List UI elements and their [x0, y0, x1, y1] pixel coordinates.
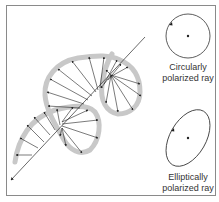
circular-label: Circularly polarized ray [158, 62, 218, 84]
circular-polarization-icon [166, 14, 210, 58]
elliptical-label-line2: polarized ray [158, 183, 218, 194]
elliptical-polarization-icon [157, 102, 219, 174]
circular-label-line2: polarized ray [158, 73, 218, 84]
circular-label-line1: Circularly [158, 62, 218, 73]
elliptical-label: Elliptically polarized ray [158, 172, 218, 194]
elliptical-label-line1: Elliptically [158, 172, 218, 183]
